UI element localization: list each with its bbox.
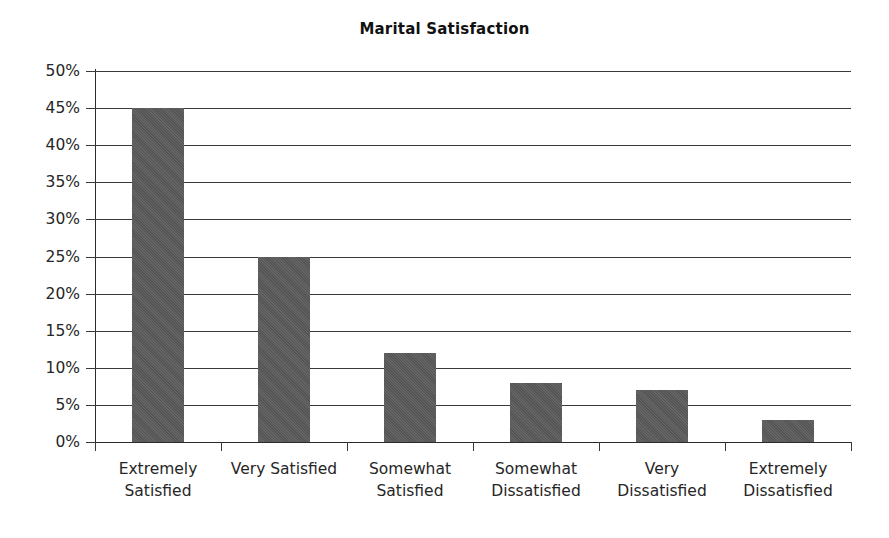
grid-line bbox=[95, 219, 851, 220]
bar bbox=[636, 390, 688, 442]
y-axis-tick bbox=[86, 71, 95, 72]
chart-title: Marital Satisfaction bbox=[0, 20, 889, 38]
x-axis-label-line: Satisfied bbox=[83, 480, 233, 502]
bar bbox=[132, 108, 184, 442]
y-axis-tick-label: 40% bbox=[8, 136, 80, 154]
bar bbox=[384, 353, 436, 442]
y-axis-tick bbox=[86, 257, 95, 258]
grid-line bbox=[95, 294, 851, 295]
bar bbox=[762, 420, 814, 442]
y-axis-tick-label: 20% bbox=[8, 285, 80, 303]
y-axis-tick-label: 25% bbox=[8, 248, 80, 266]
x-axis-tick bbox=[725, 442, 726, 451]
y-axis-tick-label: 10% bbox=[8, 359, 80, 377]
y-axis-tick bbox=[86, 145, 95, 146]
x-axis-tick bbox=[347, 442, 348, 451]
x-axis-label-line: Extremely bbox=[713, 458, 863, 480]
x-axis-tick bbox=[473, 442, 474, 451]
x-axis-label-line: Dissatisfied bbox=[713, 480, 863, 502]
plot-area bbox=[95, 71, 851, 442]
y-axis-tick bbox=[86, 219, 95, 220]
y-axis-labels: 50%45%40%35%30%25%20%15%10%5%0% bbox=[0, 0, 80, 538]
y-axis-tick-label: 0% bbox=[8, 433, 80, 451]
grid-line bbox=[95, 331, 851, 332]
bar bbox=[510, 383, 562, 442]
grid-line bbox=[95, 145, 851, 146]
grid-line bbox=[95, 368, 851, 369]
x-axis-tick bbox=[599, 442, 600, 451]
y-axis-tick bbox=[86, 108, 95, 109]
y-axis-tick-label: 35% bbox=[8, 173, 80, 191]
grid-line bbox=[95, 71, 851, 72]
y-axis-tick-label: 45% bbox=[8, 99, 80, 117]
y-axis-tick bbox=[86, 331, 95, 332]
y-axis-tick bbox=[86, 442, 95, 443]
y-axis-tick-label: 15% bbox=[8, 322, 80, 340]
x-axis-tick bbox=[851, 442, 852, 451]
grid-line bbox=[95, 182, 851, 183]
grid-line bbox=[95, 257, 851, 258]
grid-line bbox=[95, 405, 851, 406]
y-axis-tick bbox=[86, 294, 95, 295]
y-axis-tick-label: 30% bbox=[8, 210, 80, 228]
y-axis-tick-label: 50% bbox=[8, 62, 80, 80]
y-axis-tick bbox=[86, 368, 95, 369]
y-axis-tick bbox=[86, 405, 95, 406]
chart-container: Marital Satisfaction 50%45%40%35%30%25%2… bbox=[0, 0, 889, 538]
y-axis-tick bbox=[86, 182, 95, 183]
x-axis-tick bbox=[95, 442, 96, 451]
bar bbox=[258, 257, 310, 443]
x-axis-tick bbox=[221, 442, 222, 451]
y-axis-tick-label: 5% bbox=[8, 396, 80, 414]
x-axis-category-label: ExtremelyDissatisfied bbox=[713, 458, 863, 502]
grid-line bbox=[95, 108, 851, 109]
